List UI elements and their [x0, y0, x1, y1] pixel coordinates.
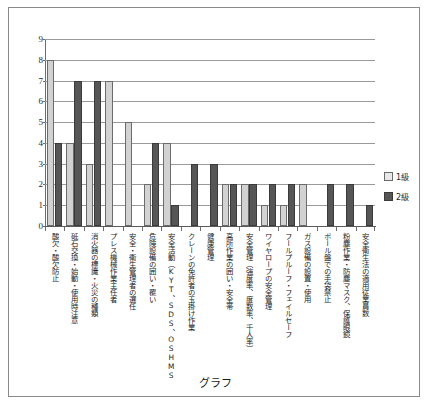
- x-axis-category-label: 健康管理: [206, 232, 214, 260]
- bar: [327, 184, 334, 226]
- y-tick-label: 7: [17, 77, 43, 86]
- x-axis-category-label: プレス機械作業主任者: [109, 232, 117, 302]
- x-tick-mark: [103, 227, 104, 231]
- legend-swatch-light: [384, 172, 393, 181]
- chart-figure: 9876543210 酸欠・酸欠防止砥石交換・始動・使用時注意消火器の標識・火災…: [8, 7, 420, 397]
- x-axis-category-label: 砥石交換・始動・使用時注意: [70, 232, 78, 323]
- x-tick-mark: [336, 227, 337, 231]
- x-tick-mark: [161, 227, 162, 231]
- bar: [125, 122, 132, 226]
- bar: [210, 164, 217, 226]
- x-axis-category-label: 消火器の標識・火災の種類: [90, 232, 98, 316]
- bar: [222, 184, 229, 226]
- bar: [66, 143, 73, 226]
- x-axis-category-label: 酸欠・酸欠防止: [51, 232, 59, 281]
- bar: [261, 205, 268, 226]
- bar: [86, 164, 93, 226]
- bar-group: [123, 39, 142, 226]
- x-tick-mark: [317, 227, 318, 231]
- y-tick-label: 8: [17, 56, 43, 65]
- bar: [74, 81, 81, 226]
- x-axis-category-label: ワイヤロープの安全管理: [264, 232, 272, 309]
- x-tick-mark: [64, 227, 65, 231]
- bar: [366, 205, 373, 226]
- bar: [241, 184, 248, 226]
- x-axis-category-label: フールプルーフ・フェイルセーフ: [284, 232, 292, 337]
- bar-group: [103, 39, 122, 226]
- legend-item[interactable]: 1級: [384, 171, 418, 182]
- x-axis-category-label: 粉塵作業・防塵マスク、保護眼鏡: [342, 232, 350, 337]
- legend-item[interactable]: 2級: [384, 191, 418, 202]
- x-tick-mark: [239, 227, 240, 231]
- x-tick-mark: [374, 227, 375, 231]
- legend-label: 1級: [396, 171, 409, 182]
- bar: [171, 205, 178, 226]
- bar-group: [297, 39, 316, 226]
- bar: [144, 184, 151, 226]
- bar: [191, 164, 198, 226]
- x-tick-mark: [84, 227, 85, 231]
- bar-group: [317, 39, 336, 226]
- x-axis-category-label: ガス設備の設置・使用: [303, 232, 311, 302]
- x-tick-mark: [278, 227, 279, 231]
- figure-caption: グラフ: [9, 374, 421, 390]
- x-tick-mark: [123, 227, 124, 231]
- bar: [47, 60, 54, 226]
- y-axis: 9876543210: [11, 39, 43, 227]
- legend-swatch-dark: [384, 192, 393, 201]
- y-tick-label: 3: [17, 160, 43, 169]
- bar: [94, 81, 101, 226]
- x-axis-category-label: ボール盤での手袋禁止: [322, 232, 330, 302]
- x-tick-mark: [45, 227, 46, 231]
- bar: [269, 184, 276, 226]
- bar-group: [259, 39, 278, 226]
- bar: [105, 81, 112, 226]
- bar: [288, 184, 295, 226]
- x-axis-category-label: 危険設備の囲い・覆い: [148, 232, 156, 302]
- y-tick-label: 9: [17, 35, 43, 44]
- bar: [249, 184, 256, 226]
- y-tick-label: 4: [17, 139, 43, 148]
- bar-group: [45, 39, 64, 226]
- bar: [55, 143, 62, 226]
- bar-group: [220, 39, 239, 226]
- bar-group: [336, 39, 355, 226]
- x-tick-mark: [200, 227, 201, 231]
- bar: [299, 184, 306, 226]
- x-tick-mark: [297, 227, 298, 231]
- bar: [152, 143, 159, 226]
- x-axis-category-label: 安全活動（KYT、SDS、OSHMS: [167, 232, 175, 380]
- legend-label: 2級: [396, 191, 409, 202]
- bar-group: [356, 39, 375, 226]
- bar-group: [84, 39, 103, 226]
- x-tick-mark: [142, 227, 143, 231]
- bar-group: [142, 39, 161, 226]
- x-axis-category-label: 高所作業の囲い・安全帯: [225, 232, 233, 309]
- x-tick-mark: [181, 227, 182, 231]
- chart-legend: 1級2級: [384, 171, 418, 211]
- bar-series-container: [45, 39, 375, 226]
- bar-group: [200, 39, 219, 226]
- bar-group: [64, 39, 83, 226]
- bar-group: [278, 39, 297, 226]
- x-axis-labels: 酸欠・酸欠防止砥石交換・始動・使用時注意消火器の標識・火災の種類プレス機械作業主…: [45, 232, 375, 372]
- x-axis-category-label: 安全・衛生管理者の選任: [128, 232, 136, 309]
- bar: [280, 205, 287, 226]
- x-axis-category-label: 安全衛生法の適用従業員数: [361, 232, 369, 316]
- x-tick-mark: [356, 227, 357, 231]
- y-tick-label: 6: [17, 97, 43, 106]
- y-tick-label: 0: [17, 222, 43, 231]
- x-tick-mark: [220, 227, 221, 231]
- x-axis-category-label: クレーンの免許者の玉掛け作業: [187, 232, 195, 330]
- bar-group: [161, 39, 180, 226]
- bar-group: [181, 39, 200, 226]
- y-tick-label: 2: [17, 180, 43, 189]
- bar: [346, 184, 353, 226]
- x-tick-mark: [259, 227, 260, 231]
- y-tick-label: 5: [17, 118, 43, 127]
- y-tick-label: 1: [17, 201, 43, 210]
- bar: [163, 143, 170, 226]
- plot-area: [45, 39, 375, 226]
- x-axis-category-label: 安全管理（強度率、度数率、千人率）: [245, 232, 253, 351]
- bar-group: [239, 39, 258, 226]
